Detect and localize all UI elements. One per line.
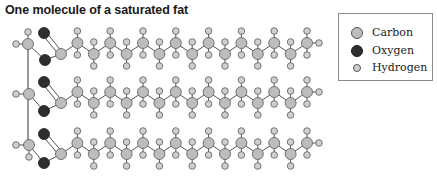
carbon-atom <box>187 98 198 109</box>
carbon-atom <box>88 149 99 160</box>
carbon-atom <box>121 98 132 109</box>
hydrogen-atom <box>304 101 311 108</box>
hydrogen-atom <box>74 128 81 135</box>
hydrogen-atom <box>156 112 163 119</box>
hydrogen-atom <box>189 39 196 46</box>
hydrogen-atom <box>140 52 147 59</box>
carbon-atom <box>121 149 132 160</box>
carbon-atom <box>220 149 231 160</box>
oxygen-atom <box>39 158 50 169</box>
hydrogen-atom <box>140 101 147 108</box>
hydrogen-atom <box>91 112 98 119</box>
hydrogen-atom <box>205 128 212 135</box>
hydrogen-atom <box>140 77 147 84</box>
hydrogen-atom <box>254 112 261 119</box>
hydrogen-atom <box>189 88 196 95</box>
hydrogen-atom <box>123 63 130 70</box>
carbon-atom <box>170 38 181 49</box>
hydrogen-atom <box>287 163 294 170</box>
hydrogen-atom <box>13 91 20 98</box>
hydrogen-atom <box>238 77 245 84</box>
legend-item-oxygen: Oxygen <box>339 43 432 59</box>
hydrogen-atom <box>287 112 294 119</box>
hydrogen-atom <box>107 152 114 159</box>
hydrogen-atom <box>271 52 278 59</box>
hydrogen-atom-icon <box>353 64 361 72</box>
hydrogen-atom <box>123 39 130 46</box>
hydrogen-atom <box>205 101 212 108</box>
hydrogen-atom <box>107 52 114 59</box>
hydrogen-atom <box>271 101 278 108</box>
hydrogen-atom <box>238 152 245 159</box>
hydrogen-atom <box>287 63 294 70</box>
hydrogen-atom <box>156 163 163 170</box>
carbon-atom <box>302 87 313 98</box>
oxygen-atom <box>40 55 51 66</box>
carbon-atom <box>105 138 116 149</box>
hydrogen-atom <box>123 163 130 170</box>
hydrogen-atom <box>238 28 245 35</box>
hydrogen-atom <box>205 77 212 84</box>
hydrogen-atom <box>91 39 98 46</box>
legend-label-carbon: Carbon <box>372 25 413 41</box>
hydrogen-atom <box>205 152 212 159</box>
oxygen-atom <box>39 106 50 117</box>
hydrogen-atom <box>26 154 33 161</box>
hydrogen-atom <box>140 128 147 135</box>
carbon-atom <box>138 38 149 49</box>
oxygen-atom-icon <box>351 45 363 57</box>
hydrogen-atom <box>271 77 278 84</box>
carbon-atom <box>236 87 247 98</box>
carbon-atom <box>269 38 280 49</box>
hydrogen-atom <box>74 77 81 84</box>
hydrogen-atom <box>271 152 278 159</box>
hydrogen-atom <box>74 101 81 108</box>
legend-item-carbon: Carbon <box>339 25 432 41</box>
oxygen-atom <box>39 77 50 88</box>
carbon-atom <box>72 138 83 149</box>
carbon-atom <box>170 138 181 149</box>
carbon-atom <box>203 87 214 98</box>
hydrogen-atom <box>222 139 229 146</box>
hydrogen-atom <box>304 152 311 159</box>
hydrogen-atom <box>123 112 130 119</box>
carbon-atom <box>105 87 116 98</box>
hydrogen-atom <box>254 88 261 95</box>
carbon-atom <box>302 38 313 49</box>
carbon-atom <box>203 38 214 49</box>
carbon-atom <box>187 49 198 60</box>
carbon-atom <box>88 49 99 60</box>
hydrogen-atom <box>222 39 229 46</box>
hydrogen-atom <box>156 139 163 146</box>
legend-label-hydrogen: Hydrogen <box>372 60 427 76</box>
carbon-atom <box>154 149 165 160</box>
hydrogen-atom <box>173 101 180 108</box>
hydrogen-atom <box>107 77 114 84</box>
hydrogen-atom <box>205 28 212 35</box>
carbon-atom <box>220 98 231 109</box>
hydrogen-atom <box>254 163 261 170</box>
hydrogen-atom <box>271 128 278 135</box>
carbon-atom <box>302 138 313 149</box>
hydrogen-atom <box>91 63 98 70</box>
hydrogen-atom <box>156 63 163 70</box>
hydrogen-atom <box>91 88 98 95</box>
legend: Carbon Oxygen Hydrogen <box>338 13 433 81</box>
hydrogen-atom <box>13 41 20 48</box>
hydrogen-atom <box>74 152 81 159</box>
hydrogen-atom <box>304 28 311 35</box>
hydrogen-atom <box>13 142 20 149</box>
hydrogen-atom <box>316 40 323 47</box>
carbon-atom <box>285 49 296 60</box>
hydrogen-atom <box>173 52 180 59</box>
hydrogen-atom <box>304 77 311 84</box>
carbon-atom <box>252 149 263 160</box>
hydrogen-atom <box>287 39 294 46</box>
hydrogen-atom <box>140 28 147 35</box>
hydrogen-atom <box>74 52 81 59</box>
carbon-atom <box>252 49 263 60</box>
hydrogen-atom <box>123 139 130 146</box>
hydrogen-atom <box>316 89 323 96</box>
hydrogen-atom <box>91 163 98 170</box>
carbon-atom <box>220 49 231 60</box>
